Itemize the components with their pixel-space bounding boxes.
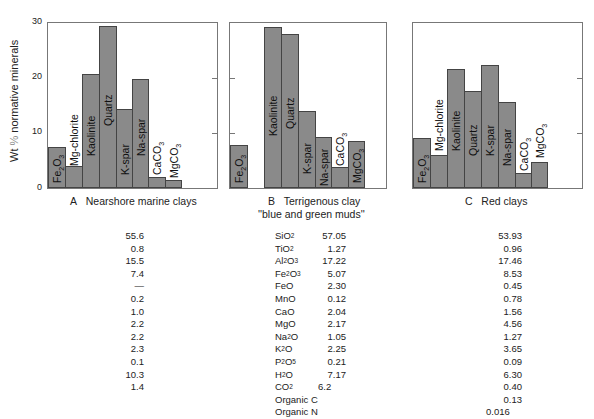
table-cell: 1.27 [486,331,522,344]
cell-value: 7.17 [318,369,346,382]
caption-a: A Nearshore marine clays [70,195,197,207]
chart-panel-a: Fe2O3 Mg-chlorite Kaolinite Quartz K-spa… [47,22,218,189]
label-b-fe2o3: Fe2O3 [233,155,247,183]
lbl: MgCO [351,153,363,183]
ox: MnO [275,293,296,306]
bar-c-mgco3 [531,162,548,188]
tick-b-10-left [230,133,235,134]
lbl: O [416,159,428,167]
y-tick-20: 20 [24,71,42,81]
chart-panel-c: Fe2O3 Mg-chlorite Kaolinite Quartz K-spa… [412,22,583,189]
cell-value: 57.05 [318,230,346,243]
table-cell: 0.12 [318,293,346,306]
label-a-k-spar: K-spar [119,144,131,175]
label-c-fe2o3: Fe2O3 [416,155,430,183]
caption-letter: C [465,195,473,207]
cell-value: 0.09 [486,356,522,369]
lbl: CaCO [151,146,163,175]
table-cell: 0.09 [486,356,522,369]
cell-value: 0.21 [318,356,346,369]
label-c-na-spar: Na-spar [501,129,513,166]
cell-value: 1.05 [318,331,346,344]
lbl: 3 [358,149,365,153]
label-b-na-spar: Na-spar [318,149,330,186]
tick-b-20-left [230,78,235,79]
table-cell: 3.65 [486,343,522,356]
table-cell: 55.6 [118,230,144,243]
label-b-mgco3: MgCO3 [351,149,365,183]
y-axis-label-part: normative minerals [8,40,20,136]
cell-value: 15.5 [118,255,144,268]
table-cell: 0.016 [486,406,522,419]
lbl: 2 [240,167,247,171]
table-cell: 17.46 [486,255,522,268]
tick-a-20 [212,78,217,79]
lbl: 3 [423,155,430,159]
table-cell: 7.4 [118,268,144,281]
tick-c-20-right [577,78,582,79]
bar-c-caco3 [515,173,532,188]
cell-value: 0.78 [486,293,522,306]
cell-value: 2.2 [118,318,144,331]
cell-value: 0.96 [486,243,522,256]
table-cell: 0.40 [486,381,522,394]
label-a-quartz: Quartz [102,94,114,126]
table-cell: 8.53 [486,268,522,281]
ox: O [291,331,298,344]
table-cell: 1.27 [318,243,346,256]
cell-value: 0.12 [318,293,346,306]
table-cell: 1.56 [486,306,522,319]
table-cell: 2.25 [318,343,346,356]
caption-title: Nearshore marine clays [86,195,197,207]
cell-value: 0.2 [118,293,144,306]
y-axis-label-percent: % [8,136,20,146]
y-tick-10: 10 [24,126,42,136]
table-cell: 53.93 [486,230,522,243]
ox: 3 [294,255,298,268]
ox: SiO [275,230,291,243]
cell-value: 6.30 [486,369,522,382]
lbl: MgCO [168,148,180,178]
table-cell: 0.96 [486,243,522,256]
bar-b-caco3 [331,167,349,188]
cell-value: 2.17 [318,318,346,331]
table-col-b: 57.05 1.27 17.22 5.07 2.30 0.12 2.04 2.1… [318,230,346,394]
label-b-caco3: CaCO3 [334,133,348,166]
cell-value: 2.30 [318,280,346,293]
table-cell: 0.8 [118,243,144,256]
cell-value: 1.56 [486,306,522,319]
caption-c: C Red clays [465,195,527,207]
label-a-fe2o3: Fe2O3 [51,155,65,183]
label-a-mg-chlorite: Mg-chlorite [68,114,80,166]
label-c-mg-chlorite: Mg-chlorite [433,99,445,151]
lbl: O [51,159,63,167]
table-col-c: 53.93 0.96 17.46 8.53 0.45 0.78 1.56 4.5… [486,230,522,419]
caption-letter: A [70,195,77,207]
cell-value: 17.46 [486,255,522,268]
caption-b-subtitle: ''blue and green muds'' [258,208,365,220]
ox: FeO [275,280,293,293]
cell-value: 2.3 [118,343,144,356]
tick-c-10-right [577,133,582,134]
caption-title: Red clays [481,195,527,207]
table-cell: 5.07 [318,268,346,281]
table-cell: 6.2 [318,381,346,394]
label-b-k-spar: K-spar [301,143,313,174]
ox: Al [275,255,283,268]
ox: O [285,356,292,369]
caption-b: B Terrigenous clay [268,195,360,207]
ox: CO [275,381,289,394]
table-cell: 1.05 [318,331,346,344]
cell-value: 7.4 [118,268,144,281]
lbl: 3 [158,142,165,146]
table-cell: 7.17 [318,369,346,382]
bar-c-mg-chlorite [430,155,448,188]
table-cell: 10.3 [118,369,144,382]
lbl: 3 [525,138,532,142]
cell-value: 0.45 [486,280,522,293]
cell-value: 10.3 [118,369,144,382]
label-a-mgco3: MgCO3 [168,144,182,178]
tick-a-10 [212,133,217,134]
cell-value: 0.1 [118,356,144,369]
table-cell: 0.1 [118,356,144,369]
